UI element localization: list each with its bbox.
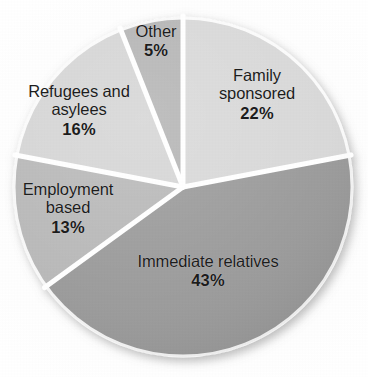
slice-label-immediate-name: Immediate relatives <box>108 252 308 270</box>
slice-label-employment-line2: based <box>2 198 134 216</box>
slice-label-family-sponsored: Family sponsored 22% <box>196 66 318 122</box>
slice-label-immediate-relatives: Immediate relatives 43% <box>108 252 308 290</box>
slice-label-family-line2: sponsored <box>196 84 318 102</box>
slice-label-refugees-line2: asylees <box>8 100 150 118</box>
pie-chart-figure: Other 5% Family sponsored 22% Refugees a… <box>0 0 368 377</box>
slice-label-refugees-line1: Refugees and <box>8 82 150 100</box>
slice-label-family-percent: 22% <box>196 104 318 122</box>
slice-label-refugees-asylees: Refugees and asylees 16% <box>8 82 150 138</box>
slice-label-refugees-percent: 16% <box>8 120 150 138</box>
slice-label-other: Other 5% <box>108 22 204 60</box>
slice-label-other-percent: 5% <box>108 41 204 59</box>
slice-label-employment-based: Employment based 13% <box>2 180 134 236</box>
slice-label-employment-percent: 13% <box>2 218 134 236</box>
slice-label-other-name: Other <box>108 22 204 40</box>
slice-label-immediate-percent: 43% <box>108 271 308 289</box>
slice-label-employment-line1: Employment <box>2 180 134 198</box>
slice-label-family-line1: Family <box>196 66 318 84</box>
